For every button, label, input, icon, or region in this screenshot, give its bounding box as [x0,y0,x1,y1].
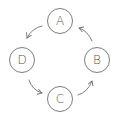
arrow-d-to-c [29,80,42,93]
node-d-label: D [17,53,26,67]
node-a-label: A [56,14,64,28]
node-c-label: C [56,92,64,106]
node-d: D [10,48,35,73]
arrow-a-to-d [27,26,42,38]
arrow-b-to-a [79,28,92,41]
arrow-c-to-b [78,81,92,95]
node-b: B [85,48,110,73]
node-b-label: B [93,53,101,67]
node-a: A [48,9,73,34]
cycle-diagram: A B C D [0,0,118,121]
node-c: C [48,87,73,112]
